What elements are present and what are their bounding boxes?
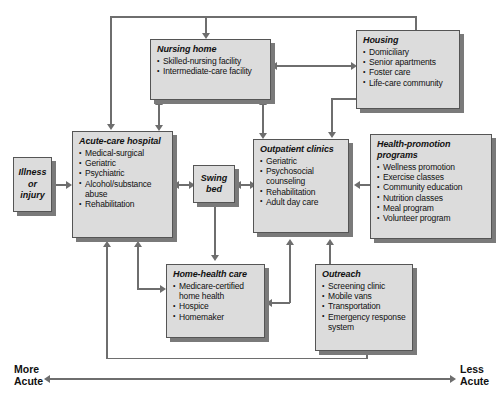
node-swingbed-title: Swing bed [201, 173, 228, 196]
connector-nursinghome-acute [158, 105, 160, 125]
arrowhead-housing-to-nursinghome [271, 62, 277, 70]
connector-outreach-homehealth-v [289, 245, 291, 303]
connector-top-bus [110, 16, 416, 18]
arrowhead-healthpromo-to-outpatient [354, 181, 360, 189]
list-item: Nutrition classes [377, 193, 486, 203]
list-item: Mobile vans [322, 291, 407, 301]
list-item: Rehabilitation [79, 199, 167, 209]
connector-nursinghome-housing [277, 65, 351, 67]
illness-line-2: or [28, 179, 37, 189]
arrowhead-top-to-acute [107, 124, 115, 130]
connector-swingbed-outpatient [241, 184, 250, 186]
connector-acute-swingbed [179, 184, 189, 186]
less-acute-line-2: Acute [460, 375, 489, 387]
illness-line-1: Illness [18, 167, 46, 177]
arrowhead-bottom-return-to-acute [103, 241, 111, 247]
list-item: Hospice [173, 301, 259, 311]
connector-housing-to-top-bus [415, 16, 417, 31]
node-outpatient-list: Geriatric Psychosocial counseling Rehabi… [260, 156, 343, 207]
connector-bottom-return-h [106, 358, 367, 360]
list-item: Meal program [377, 203, 486, 213]
connector-top-to-nursinghome [205, 16, 207, 33]
connector-housing-elbow-h [331, 98, 357, 100]
list-item: Senior apartments [363, 57, 454, 67]
list-item: Adult day care [260, 197, 343, 207]
list-item-continuation: home health [173, 291, 259, 301]
node-acute-title: Acute-care hospital [79, 136, 167, 147]
node-healthpromo-title: Health-promotion programs [377, 139, 486, 161]
arrowhead-swingbed-to-homehealth [211, 255, 219, 261]
diagram-canvas: Illness or injury Acute-care hospital Me… [0, 0, 501, 397]
acuity-axis-line [50, 378, 450, 380]
node-outreach-title: Outreach [322, 269, 407, 280]
list-item: Domiciliary [363, 47, 454, 57]
node-housing[interactable]: Housing Domiciliary Senior apartments Fo… [356, 30, 460, 109]
node-acute-care-hospital[interactable]: Acute-care hospital Medical-surgical Ger… [72, 131, 173, 238]
list-item: Geriatric [79, 158, 167, 168]
connector-bottom-return-left-v [106, 247, 108, 358]
arrowhead-homehealth-to-acute [134, 241, 142, 247]
node-home-health-care[interactable]: Home-health care Medicare-certified home… [166, 264, 265, 338]
list-item: Geriatric [260, 156, 343, 166]
connector-healthpromo-outpatient [360, 184, 370, 186]
connector-swingbed-homehealth [214, 203, 216, 255]
more-acute-line-2: Acute [14, 375, 43, 387]
list-item: Homemaker [173, 312, 259, 322]
node-housing-list: Domiciliary Senior apartments Foster car… [363, 47, 454, 88]
axis-label-more-acute: More Acute [14, 364, 43, 387]
arrowhead-outreach-branch-up [286, 239, 294, 245]
swingbed-line-2: bed [206, 184, 222, 194]
list-item: Wellness promotion [377, 162, 486, 172]
more-acute-line-1: More [14, 363, 39, 375]
list-item: Intermediate-care facility [157, 66, 265, 76]
list-item: Psychosocial [260, 166, 343, 176]
node-health-promotion-programs[interactable]: Health-promotion programs Wellness promo… [370, 134, 492, 239]
node-illness-or-injury[interactable]: Illness or injury [13, 157, 52, 212]
axis-label-less-acute: Less Acute [460, 364, 489, 387]
list-item: Transportation [322, 301, 407, 311]
list-item: Volunteer program [377, 213, 486, 223]
arrowhead-outpatient-to-swingbed [235, 181, 241, 189]
node-housing-title: Housing [363, 35, 454, 46]
list-item-continuation: counseling [260, 176, 343, 186]
node-outreach-list: Screening clinic Mobile vans Transportat… [322, 281, 407, 332]
connector-outreach-homehealth-h [272, 302, 290, 304]
list-item: Community education [377, 182, 486, 192]
node-nursing-home[interactable]: Nursing home Skilled-nursing facility In… [150, 39, 271, 100]
connector-housing-elbow-v [331, 98, 333, 132]
list-item: Foster care [363, 67, 454, 77]
list-item-continuation: system [322, 322, 407, 332]
node-outpatient-title: Outpatient clinics [260, 144, 343, 155]
arrowhead-swingbed-to-acute [173, 181, 179, 189]
connector-illness-acute [56, 184, 66, 186]
node-outreach[interactable]: Outreach Screening clinic Mobile vans Tr… [315, 264, 413, 351]
acuity-axis-left-arrowhead [44, 375, 50, 383]
node-illness-title: Illness or injury [18, 167, 46, 202]
list-item: Emergency response [322, 312, 407, 322]
node-swing-bed[interactable]: Swing bed [193, 165, 235, 203]
connector-top-to-acute [110, 16, 112, 124]
list-item: Rehabilitation [260, 187, 343, 197]
node-homehealth-list: Medicare-certified home health Hospice H… [173, 281, 259, 322]
node-healthpromo-list: Wellness promotion Exercise classes Comm… [377, 162, 486, 223]
list-item: Screening clinic [322, 281, 407, 291]
node-outpatient-clinics[interactable]: Outpatient clinics Geriatric Psychosocia… [253, 139, 349, 233]
list-item: Skilled-nursing facility [157, 56, 265, 66]
connector-nursinghome-outpatient [262, 105, 264, 133]
swingbed-line-1: Swing [201, 173, 228, 183]
list-item: Medicare-certified [173, 281, 259, 291]
node-nursinghome-list: Skilled-nursing facility Intermediate-ca… [157, 56, 265, 76]
list-item-continuation: abuse [79, 189, 167, 199]
illness-line-3: injury [20, 190, 45, 200]
arrowhead-outreach-to-homehealth [266, 299, 272, 307]
less-acute-line-1: Less [460, 363, 484, 375]
node-homehealth-title: Home-health care [173, 269, 259, 280]
list-item: Medical-surgical [79, 148, 167, 158]
list-item: Psychiatric [79, 168, 167, 178]
list-item: Life-care community [363, 78, 454, 88]
arrowhead-housing-to-outpatient [328, 132, 336, 138]
arrowhead-outreach-to-outpatient [326, 239, 334, 245]
node-nursinghome-title: Nursing home [157, 44, 265, 55]
connector-homehealth-elbow-v [137, 247, 139, 288]
node-acute-list: Medical-surgical Geriatric Psychiatric A… [79, 148, 167, 209]
